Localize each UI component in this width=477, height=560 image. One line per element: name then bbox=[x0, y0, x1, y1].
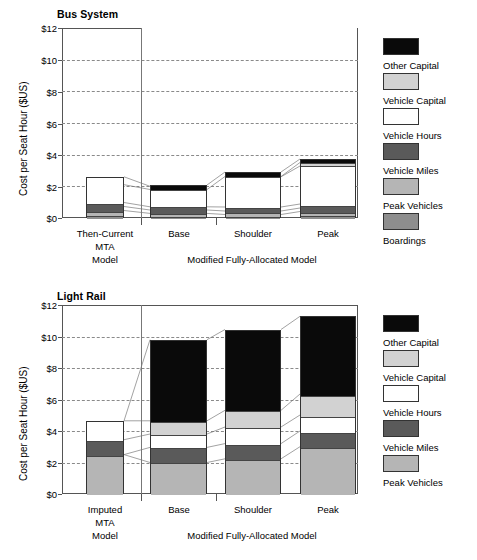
bus-legend-label-vehicle-hours: Vehicle Hours bbox=[383, 130, 442, 141]
bus-seg-boardings-2 bbox=[226, 217, 280, 220]
bus-xcat-then-current-line3: Model bbox=[92, 254, 118, 265]
rail-seg-other-capital-2 bbox=[226, 331, 280, 412]
rail-bar-shoulder bbox=[225, 330, 281, 495]
bus-ytick-0: $0 bbox=[25, 213, 57, 224]
rail-seg-vehicle-miles-2 bbox=[226, 445, 280, 460]
bus-legend-label-vehicle-miles: Vehicle Miles bbox=[383, 165, 438, 176]
rail-legend-swatch-vehicle-miles bbox=[383, 420, 419, 437]
rail-seg-vehicle-hours-3 bbox=[301, 417, 355, 433]
bus-seg-vehicle-hours-3 bbox=[301, 166, 355, 206]
bus-seg-boardings-0 bbox=[87, 216, 123, 219]
rail-bar-imputed-mta bbox=[86, 421, 124, 494]
rail-legend-label-vehicle-hours: Vehicle Hours bbox=[383, 407, 442, 418]
rail-seg-other-capital-1 bbox=[151, 341, 206, 422]
rail-legend-label-peak-vehicles: Peak Vehicles bbox=[383, 477, 443, 488]
bus-bar-shoulder bbox=[225, 172, 281, 218]
rail-model-divider bbox=[141, 305, 142, 494]
bus-xcat-then-current-line1: Then-Current bbox=[77, 228, 134, 239]
rail-xcat-base: Base bbox=[168, 504, 190, 515]
bus-gridline-4 bbox=[62, 155, 358, 156]
bus-y-axis-label: Cost per Seat Hour ($US) bbox=[18, 82, 29, 197]
bus-xcat-base: Base bbox=[168, 228, 190, 239]
rail-seg-vehicle-miles-3 bbox=[301, 433, 355, 448]
rail-bar-peak bbox=[300, 316, 356, 494]
bus-ytick-2: $2 bbox=[25, 182, 57, 193]
bus-system-chart: Bus System Cost per Seat Hour ($US) $12 … bbox=[0, 0, 477, 280]
bus-gridline-10 bbox=[62, 60, 358, 61]
rail-seg-vehicle-capital-1 bbox=[151, 422, 206, 435]
rail-seg-vehicle-hours-2 bbox=[226, 428, 280, 445]
rail-group-label: Modified Fully-Allocated Model bbox=[187, 530, 316, 541]
bus-seg-vehicle-miles-1 bbox=[151, 207, 206, 214]
rail-ytick-6: $6 bbox=[25, 394, 57, 405]
rail-ytick-8: $8 bbox=[25, 363, 57, 374]
rail-seg-peak-vehicles-3 bbox=[301, 448, 355, 495]
bus-legend-label-vehicle-capital: Vehicle Capital bbox=[383, 95, 446, 106]
rail-seg-vehicle-miles-1 bbox=[151, 448, 206, 463]
bus-ytick-10: $10 bbox=[25, 55, 57, 66]
bus-legend-swatch-vehicle-hours bbox=[383, 108, 419, 125]
bus-ytick-4: $4 bbox=[25, 150, 57, 161]
rail-ytick-12: $12 bbox=[25, 300, 57, 311]
rail-seg-peak-vehicles-0 bbox=[87, 456, 123, 495]
light-rail-chart: Light Rail Cost per Seat Hour ($US) $12 … bbox=[0, 285, 477, 560]
bus-seg-vehicle-hours-2 bbox=[226, 177, 280, 207]
bus-legend-swatch-boardings bbox=[383, 213, 419, 230]
rail-seg-peak-vehicles-2 bbox=[226, 460, 280, 495]
bus-seg-vehicle-miles-0 bbox=[87, 204, 123, 212]
rail-seg-vehicle-capital-2 bbox=[226, 411, 280, 428]
bus-seg-vehicle-hours-0 bbox=[87, 178, 123, 204]
bus-legend-label-peak-vehicles: Peak Vehicles bbox=[383, 200, 443, 211]
bus-model-divider bbox=[141, 28, 142, 218]
rail-legend-swatch-vehicle-hours bbox=[383, 385, 419, 402]
rail-xcat-imputed-line2: MTA bbox=[95, 517, 114, 528]
rail-legend-swatch-peak-vehicles bbox=[383, 455, 419, 472]
rail-seg-vehicle-hours-1 bbox=[151, 435, 206, 448]
bus-xcat-then-current-line2: MTA bbox=[95, 241, 114, 252]
bus-group-label: Modified Fully-Allocated Model bbox=[187, 254, 316, 265]
rail-legend-label-vehicle-capital: Vehicle Capital bbox=[383, 372, 446, 383]
rail-seg-vehicle-capital-3 bbox=[301, 396, 355, 417]
bus-legend-swatch-vehicle-miles bbox=[383, 143, 419, 160]
rail-xcat-peak: Peak bbox=[317, 504, 339, 515]
bus-bar-peak bbox=[300, 159, 356, 218]
rail-seg-peak-vehicles-1 bbox=[151, 463, 206, 495]
rail-xtick-base-shoulder bbox=[141, 494, 142, 501]
rail-xcat-shoulder: Shoulder bbox=[234, 504, 272, 515]
bus-bar-then-current-mta bbox=[86, 177, 124, 218]
bus-xtick-base-shoulder bbox=[141, 218, 142, 225]
bus-xcat-peak: Peak bbox=[317, 228, 339, 239]
rail-chart-title: Light Rail bbox=[57, 290, 106, 302]
bus-ytick-12: $12 bbox=[25, 23, 57, 34]
bus-seg-vehicle-hours-1 bbox=[151, 190, 206, 207]
bus-gridline-6 bbox=[62, 123, 358, 124]
bus-legend-swatch-other-capital bbox=[383, 38, 419, 55]
bus-xtick-shoulder-peak bbox=[216, 218, 217, 225]
bus-gridline-8 bbox=[62, 91, 358, 92]
bus-chart-title: Bus System bbox=[57, 8, 118, 20]
bus-legend: Other Capital Vehicle Capital Vehicle Ho… bbox=[383, 38, 477, 238]
bus-ytick-8: $8 bbox=[25, 87, 57, 98]
bus-ytickmark-0 bbox=[58, 218, 62, 219]
rail-ytick-4: $4 bbox=[25, 426, 57, 437]
bus-legend-swatch-vehicle-capital bbox=[383, 73, 419, 90]
rail-ytick-2: $2 bbox=[25, 457, 57, 468]
bus-xcat-shoulder: Shoulder bbox=[234, 228, 272, 239]
rail-ytickmark-0 bbox=[58, 494, 62, 495]
bus-legend-label-boardings: Boardings bbox=[383, 235, 426, 246]
bus-ytick-6: $6 bbox=[25, 119, 57, 130]
rail-legend-label-other-capital: Other Capital bbox=[383, 337, 439, 348]
bus-seg-boardings-3 bbox=[301, 216, 355, 219]
rail-xcat-imputed-line3: Model bbox=[92, 530, 118, 541]
rail-ytick-0: $0 bbox=[25, 489, 57, 500]
bus-legend-label-other-capital: Other Capital bbox=[383, 60, 439, 71]
rail-seg-other-capital-3 bbox=[301, 317, 355, 396]
rail-seg-vehicle-hours-0 bbox=[87, 422, 123, 441]
bus-legend-swatch-peak-vehicles bbox=[383, 178, 419, 195]
rail-axis-top bbox=[62, 305, 358, 306]
rail-bar-base bbox=[150, 340, 207, 494]
rail-xtick-shoulder-peak bbox=[216, 494, 217, 501]
rail-plot-area bbox=[62, 305, 358, 494]
rail-legend-swatch-vehicle-capital bbox=[383, 350, 419, 367]
rail-seg-vehicle-miles-0 bbox=[87, 441, 123, 456]
